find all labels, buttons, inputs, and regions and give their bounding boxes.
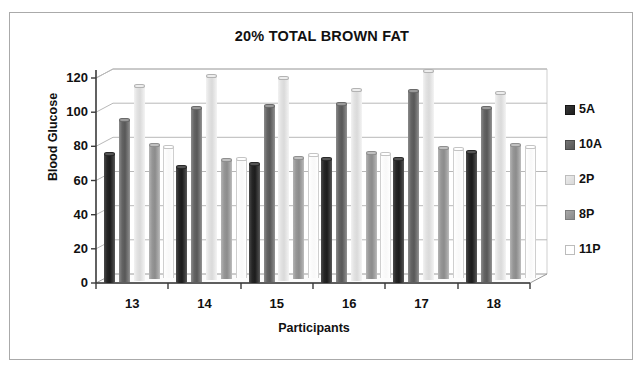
bar-10A-15 [264, 104, 275, 282]
bar-2P-16 [351, 88, 362, 281]
bar-body [236, 159, 247, 278]
bar-body [453, 149, 464, 279]
bar-cap [453, 147, 464, 151]
bar-body [393, 159, 404, 283]
bar-cap [278, 76, 289, 80]
legend-item-10A[interactable]: 10A [565, 139, 635, 174]
bar-body [510, 145, 521, 280]
bar-cap [525, 145, 536, 149]
bar-body [191, 108, 202, 282]
bar-cap [466, 150, 477, 154]
bar-body [438, 148, 449, 279]
legend-swatch-icon [565, 245, 575, 255]
bar-5A-17 [393, 157, 404, 283]
bar-body [423, 71, 434, 281]
legend-label: 2P [579, 174, 594, 185]
chart-title: 20% TOTAL BROWN FAT [0, 28, 644, 44]
bar-cap [351, 88, 362, 92]
bar-11P-15 [308, 153, 319, 278]
bar-5A-15 [249, 162, 260, 283]
x-tick-label: 14 [175, 296, 235, 311]
bar-body [466, 152, 477, 283]
bar-cap [336, 102, 347, 106]
bar-cap [264, 104, 275, 108]
legend-item-8P[interactable]: 8P [565, 209, 635, 244]
bar-5A-14 [176, 165, 187, 283]
bar-body [351, 90, 362, 281]
legend-label: 10A [579, 139, 602, 150]
bar-body [149, 145, 160, 280]
legend-swatch-icon [565, 210, 575, 220]
bar-body [163, 147, 174, 278]
legend-item-11P[interactable]: 11P [565, 244, 635, 279]
bar-cap [438, 146, 449, 150]
bar-2P-13 [134, 84, 145, 281]
bar-cap [495, 91, 506, 95]
bar-5A-16 [321, 157, 332, 283]
bar-cap [293, 156, 304, 160]
legend-swatch-icon [565, 105, 575, 115]
bar-11P-18 [525, 145, 536, 278]
bar-2P-15 [278, 76, 289, 281]
bar-body [495, 93, 506, 281]
bar-10A-17 [408, 89, 419, 282]
bar-8P-17 [438, 146, 449, 279]
bar-body [481, 108, 492, 282]
bar-cap [221, 158, 232, 162]
x-tick-label: 13 [102, 296, 162, 311]
bar-cap [163, 145, 174, 149]
y-tick-label: 60 [42, 174, 88, 187]
bar-cap [236, 157, 247, 161]
x-tick-label: 15 [247, 296, 307, 311]
bar-10A-18 [481, 106, 492, 282]
y-tick-label: 100 [42, 105, 88, 118]
bar-cap [191, 106, 202, 110]
bar-11P-16 [380, 152, 391, 278]
bar-body [264, 106, 275, 282]
bar-cap [176, 165, 187, 169]
y-axis-tick-labels: 120 100 80 60 40 20 0 [36, 0, 88, 372]
bar-8P-13 [149, 143, 160, 280]
bar-11P-17 [453, 147, 464, 279]
bar-body [380, 154, 391, 278]
bar-cap [380, 152, 391, 156]
bar-5A-18 [466, 150, 477, 283]
x-tick-label: 18 [464, 296, 524, 311]
bar-body [336, 104, 347, 281]
bar-8P-14 [221, 158, 232, 279]
bar-10A-14 [191, 106, 202, 282]
x-tick-label: 17 [392, 296, 452, 311]
bar-10A-13 [119, 118, 130, 282]
y-tick-label: 120 [42, 71, 88, 84]
legend-item-5A[interactable]: 5A [565, 104, 635, 139]
bar-8P-15 [293, 156, 304, 279]
chart-screenshot: 20% TOTAL BROWN FAT Blood Glucose 120 10… [0, 0, 644, 372]
legend-item-2P[interactable]: 2P [565, 174, 635, 209]
bar-body [293, 158, 304, 279]
bar-body [176, 167, 187, 283]
bar-2P-17 [423, 69, 434, 281]
bar-cap [393, 157, 404, 161]
bar-2P-18 [495, 91, 506, 281]
bar-body [221, 160, 232, 279]
chart-legend: 5A 10A 2P 8P 11P [565, 104, 635, 279]
bar-cap [119, 118, 130, 122]
bar-cap [366, 151, 377, 155]
legend-swatch-icon [565, 140, 575, 150]
bar-body [119, 120, 130, 282]
bar-cap [423, 69, 434, 73]
y-tick-label: 0 [42, 276, 88, 289]
x-tick-label: 16 [319, 296, 379, 311]
bar-body [321, 159, 332, 283]
bar-8P-18 [510, 143, 521, 280]
bar-cap [510, 143, 521, 147]
bar-body [366, 153, 377, 279]
bar-11P-14 [236, 157, 247, 278]
legend-label: 5A [579, 104, 595, 115]
bar-body [525, 147, 536, 278]
bar-8P-16 [366, 151, 377, 279]
bar-body [308, 155, 319, 278]
bar-cap [134, 84, 145, 88]
legend-label: 11P [579, 244, 601, 255]
bar-cap [206, 74, 217, 78]
